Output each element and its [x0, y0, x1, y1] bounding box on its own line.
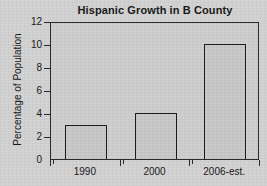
bar — [204, 44, 246, 159]
bar — [135, 113, 177, 159]
y-axis-tick-label: 6 — [20, 86, 42, 96]
chart-figure: Hispanic Growth in B County Percentage o… — [0, 0, 267, 186]
x-axis-boundary-tick — [120, 160, 121, 166]
x-axis-boundary-tick — [50, 160, 51, 166]
y-axis-tick-label: 8 — [20, 63, 42, 73]
plot-area — [50, 22, 259, 160]
x-axis-boundary-tick — [259, 160, 260, 166]
y-axis-tick-label: 2 — [20, 132, 42, 142]
x-axis-tick-label: 2000 — [143, 166, 165, 177]
bar — [65, 125, 107, 160]
y-axis-tick-label: 10 — [20, 40, 42, 50]
x-axis-tick-label: 1990 — [74, 166, 96, 177]
y-axis-tick-label: 12 — [20, 17, 42, 27]
x-axis-tick-label: 2006-est. — [203, 166, 245, 177]
x-axis-tick-mark — [123, 160, 124, 164]
bars-layer — [51, 23, 258, 159]
x-axis-tick-mark — [192, 160, 193, 164]
x-axis-tick-mark — [53, 160, 54, 164]
x-axis-boundary-tick — [189, 160, 190, 166]
y-axis-tick-label: 4 — [20, 109, 42, 119]
chart-title: Hispanic Growth in B County — [50, 4, 260, 16]
y-axis-tick-label: 0 — [20, 155, 42, 165]
y-axis-tick-labels: 024681012 — [16, 0, 42, 186]
